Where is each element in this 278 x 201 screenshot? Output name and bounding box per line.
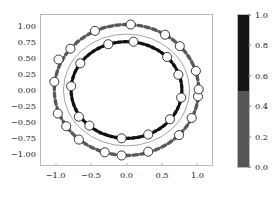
colorbar-tick-mark — [248, 15, 251, 16]
x-tick-mark — [55, 163, 56, 166]
data-point-marker — [74, 112, 83, 121]
data-point-marker — [126, 20, 135, 29]
colorbar-tick-label: 0.6 — [255, 71, 268, 81]
x-tick-label: −0.5 — [81, 170, 101, 180]
data-point-marker — [100, 148, 109, 157]
x-tick-label: 0.0 — [120, 170, 133, 180]
data-point-marker — [129, 37, 138, 46]
data-point-marker — [85, 121, 94, 130]
data-point-marker — [76, 59, 85, 68]
data-point-marker — [54, 55, 63, 64]
middle-solid-ring — [63, 34, 189, 146]
data-point-marker — [163, 52, 172, 61]
x-tick-mark — [91, 163, 92, 166]
x-axis-tick-labels: −1.0−0.50.00.51.0 — [40, 170, 213, 184]
data-point-marker — [117, 134, 126, 143]
plot-graphics — [41, 15, 212, 165]
x-tick-label: −1.0 — [46, 170, 66, 180]
colorbar-tick-label: 0.4 — [255, 101, 268, 111]
y-axis-tick-marks — [0, 14, 40, 166]
x-tick-mark — [197, 163, 198, 166]
x-axis-tick-marks — [40, 166, 213, 171]
colorbar-tick-label: 0.8 — [255, 40, 268, 50]
data-point-marker — [177, 93, 186, 102]
data-point-marker — [175, 42, 184, 51]
data-point-marker — [117, 151, 126, 160]
data-point-marker — [50, 77, 59, 86]
colorbar-tick-mark — [248, 136, 251, 137]
data-point-marker — [194, 85, 203, 94]
colorbar-tick-mark — [248, 106, 251, 107]
colorbar-tick-mark — [248, 167, 251, 168]
colorbar-tick-label: 0.0 — [255, 162, 268, 172]
data-point-marker — [53, 109, 62, 118]
data-point-marker — [144, 147, 153, 156]
x-tick-label: 0.5 — [155, 170, 168, 180]
data-point-marker — [165, 115, 174, 124]
colorbar-tick-mark — [248, 45, 251, 46]
data-point-marker — [90, 26, 99, 35]
data-point-marker — [144, 130, 153, 139]
data-point-marker — [174, 70, 183, 79]
data-point-marker — [191, 66, 200, 75]
plot-area — [40, 14, 213, 166]
colorbar-tick-labels: 1.00.80.60.40.20.0 — [252, 14, 278, 168]
inner-markers — [67, 37, 186, 143]
data-point-marker — [187, 113, 196, 122]
data-point-marker — [104, 40, 113, 49]
colorbar-tick-label: 0.2 — [255, 132, 268, 142]
data-point-marker — [175, 131, 184, 140]
data-point-marker — [66, 44, 75, 53]
x-tick-mark — [126, 163, 127, 166]
data-point-marker — [62, 122, 71, 131]
data-point-marker — [67, 82, 76, 91]
figure-canvas: 1.000.750.500.250.00−0.25−0.50−0.75−1.00… — [0, 0, 278, 201]
data-point-marker — [74, 135, 83, 144]
colorbar-tick-label: 1.0 — [255, 10, 268, 20]
data-point-marker — [161, 30, 170, 39]
x-tick-label: 1.0 — [191, 170, 204, 180]
x-tick-mark — [161, 163, 162, 166]
colorbar-tick-mark — [248, 75, 251, 76]
